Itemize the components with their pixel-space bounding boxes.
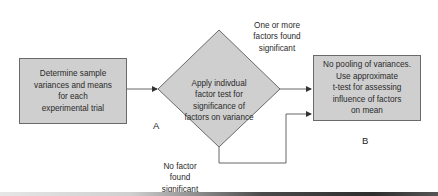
decision-label: Apply indivdual factor test for signific… (184, 79, 253, 123)
no-branch-label: No factor found significant (145, 149, 215, 195)
page-edge-shadow (0, 192, 438, 196)
no-pooling-box: No pooling of variances. Use approximate… (313, 55, 421, 121)
yes-branch-text: One or more factors found significant (253, 21, 300, 53)
no-branch-text: No factor found significant (162, 162, 198, 194)
decision-text: Apply indivdual factor test for signific… (170, 66, 268, 124)
yes-branch-label: One or more factors found significant (237, 8, 317, 54)
determine-variances-text: Determine sample variances and means for… (34, 68, 112, 114)
no-pooling-text: No pooling of variances. Use approximate… (323, 59, 411, 117)
point-label-a: A (153, 120, 159, 131)
determine-variances-box: Determine sample variances and means for… (19, 58, 127, 124)
point-label-b: B (362, 135, 368, 146)
flowchart: Determine sample variances and means for… (0, 0, 438, 196)
